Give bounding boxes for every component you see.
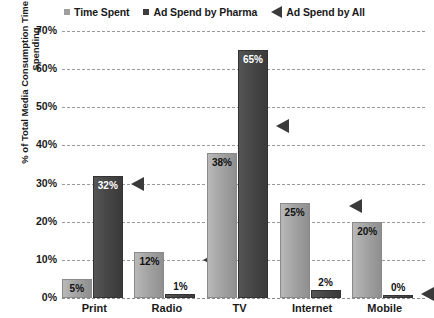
legend-item-time-spent: Time Spent [64,6,129,18]
y-axis-tick-label: 10% [0,253,57,265]
x-axis-tick-label-print: Print [82,302,107,314]
bar-value-label: 12% [139,256,159,267]
bar-tv-ad-spend-by-pharma[interactable]: 65% [238,50,268,298]
ad-spend-by-all-marker-mobile[interactable] [421,287,434,301]
bar-print-ad-spend-by-pharma[interactable]: 32% [93,176,123,298]
bar-mobile-ad-spend-by-pharma[interactable]: 0% [383,295,413,298]
bar-internet-ad-spend-by-pharma[interactable]: 2% [311,290,341,298]
legend-item-ad-spend-by-pharma: Ad Spend by Pharma [143,6,257,18]
bar-group: 20%0% [352,31,425,298]
bar-group: 38%65% [207,31,280,298]
gridline [62,298,425,299]
bar-value-label: 20% [357,226,377,237]
y-axis-tick-label: 60% [0,62,57,74]
legend-label-time-spent: Time Spent [74,6,129,18]
bar-radio-ad-spend-by-pharma[interactable]: 1% [165,294,195,298]
legend-left-triangle-icon [271,6,282,18]
bar-value-label: 65% [243,54,263,65]
y-axis-tick-label: 30% [0,177,57,189]
y-axis-tick-label: 20% [0,215,57,227]
x-axis-tick-label-mobile: Mobile [367,302,402,314]
bar-mobile-time-spent[interactable]: 20% [352,222,382,298]
plot-area: 70%60%50%40%30%20%10%0%5%32%12%1%38%65%2… [62,31,425,298]
legend-label-ad-spend-by-all: Ad Spend by All [286,6,365,18]
y-axis-tick-label: 70% [0,24,57,36]
legend-swatch-square-icon [64,9,70,15]
bar-tv-time-spent[interactable]: 38% [207,153,237,298]
bar-value-label: 5% [70,283,84,294]
chart-legend: Time Spent Ad Spend by Pharma Ad Spend b… [0,2,429,22]
x-axis-tick-label-radio: Radio [152,302,183,314]
bar-value-label: 32% [98,180,118,191]
x-axis-tick-label-internet: Internet [292,302,332,314]
bar-internet-time-spent[interactable]: 25% [280,203,310,298]
y-axis-tick-label: 40% [0,138,57,150]
bar-group: 25%2% [280,31,353,298]
bar-value-label: 38% [212,157,232,168]
y-axis-tick-label: 50% [0,100,57,112]
bar-print-time-spent[interactable]: 5% [62,279,92,298]
y-axis-tick-label: 0% [0,291,57,303]
x-axis-tick-label-tv: TV [232,302,246,314]
bar-value-label: 1% [173,281,187,292]
legend-label-ad-spend-by-pharma: Ad Spend by Pharma [153,6,257,18]
bar-value-label: 25% [285,207,305,218]
legend-item-ad-spend-by-all: Ad Spend by All [271,6,365,18]
bar-group: 12%1% [135,31,208,298]
bar-group: 5%32% [62,31,135,298]
bar-value-label: 2% [318,277,332,288]
bar-radio-time-spent[interactable]: 12% [134,252,164,298]
legend-swatch-square-icon [143,9,149,15]
bar-value-label: 0% [391,282,405,293]
